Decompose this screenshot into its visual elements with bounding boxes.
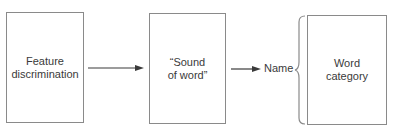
arrow-sound-to-name	[231, 66, 261, 72]
arrow-feature-to-sound	[88, 65, 144, 71]
curly-brace-icon	[295, 16, 305, 124]
connectors-layer	[0, 0, 393, 131]
